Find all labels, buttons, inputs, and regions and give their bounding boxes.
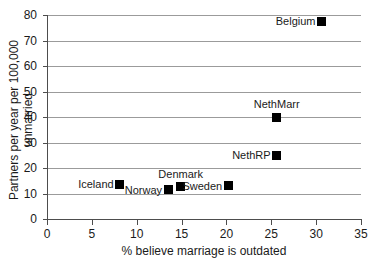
y-axis-tick-label: 10 (0, 188, 37, 200)
y-axis-tick-label: 70 (0, 35, 37, 47)
y-axis-tick (43, 194, 47, 195)
data-point-marker (317, 17, 326, 26)
x-axis-tick-label: 5 (77, 228, 107, 240)
data-point-label: Iceland (78, 179, 113, 190)
x-axis-tick-label: 20 (211, 228, 241, 240)
data-point-marker (224, 181, 233, 190)
x-axis-title: % believe marriage is outdated (47, 244, 361, 258)
y-axis-tick (43, 41, 47, 42)
data-point-label: Denmark (158, 169, 203, 180)
data-point-label: Sweden (182, 180, 222, 191)
y-axis-tick-label: 30 (0, 137, 37, 149)
y-axis-tick-label: 20 (0, 162, 37, 174)
y-axis-spine (47, 15, 48, 220)
x-axis-tick (47, 220, 48, 225)
data-point-marker (272, 151, 281, 160)
y-axis-tick (43, 143, 47, 144)
data-point-label: Norway (125, 184, 162, 195)
data-point-marker (272, 113, 281, 122)
y-axis-tick-label: 40 (0, 111, 37, 123)
y-axis-tick (43, 15, 47, 16)
data-point-marker (164, 185, 173, 194)
x-axis-tick-label: 35 (346, 228, 376, 240)
x-axis-tick-label: 25 (256, 228, 286, 240)
gridline (47, 168, 361, 169)
data-point-marker (115, 180, 124, 189)
y-axis-tick-label: 50 (0, 86, 37, 98)
x-axis-tick (271, 220, 272, 225)
x-axis-tick (92, 220, 93, 225)
y-axis-tick (43, 117, 47, 118)
x-axis-tick (226, 220, 227, 225)
gridline (47, 92, 361, 93)
gridline (47, 194, 361, 195)
gridline (47, 143, 361, 144)
x-axis-tick-label: 10 (122, 228, 152, 240)
y-axis-tick-label: 0 (0, 213, 37, 225)
y-axis-tick (43, 66, 47, 67)
x-axis-spine (47, 219, 362, 220)
x-axis-tick (137, 220, 138, 225)
data-point-label: NethRP (232, 150, 271, 161)
data-point-label: Belgium (276, 16, 316, 27)
x-axis-tick (316, 220, 317, 225)
y-axis-tick (43, 92, 47, 93)
scatter-plot-figure: % believe marriage is outdated Partners … (0, 0, 377, 265)
x-axis-tick-label: 0 (32, 228, 62, 240)
gridline (47, 41, 361, 42)
x-axis-tick-label: 30 (301, 228, 331, 240)
y-axis-tick-label: 60 (0, 60, 37, 72)
x-axis-tick (182, 220, 183, 225)
data-point-label: NethMarr (254, 99, 300, 110)
y-axis-tick (43, 168, 47, 169)
x-axis-tick (361, 220, 362, 225)
gridline (47, 66, 361, 67)
gridline (47, 117, 361, 118)
y-axis-tick-label: 80 (0, 9, 37, 21)
x-axis-tick-label: 15 (167, 228, 197, 240)
